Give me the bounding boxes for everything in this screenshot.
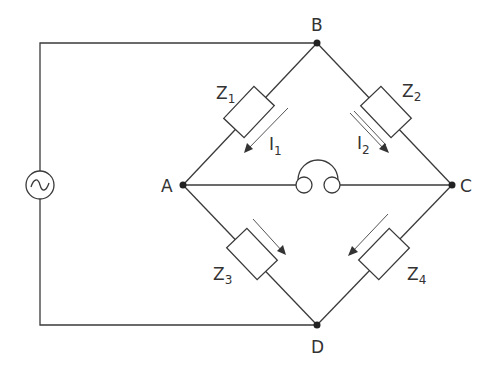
bridge-circuit-diagram: B A C D Z1 Z2 Z3 Z4 I1 I2 <box>0 0 496 376</box>
z4-label: Z4 <box>407 264 426 287</box>
node-b-dot <box>314 40 321 47</box>
node-a-dot <box>180 182 187 189</box>
node-d-dot <box>314 322 321 329</box>
ac-source-icon <box>26 171 54 199</box>
i1-label: I1 <box>269 134 282 158</box>
z3-label: Z3 <box>213 264 232 287</box>
z4-impedance <box>359 228 410 279</box>
z3-impedance <box>227 228 278 279</box>
z1-label: Z1 <box>216 83 235 106</box>
z2-label: Z2 <box>402 81 421 104</box>
node-d-label: D <box>311 337 324 357</box>
source-loop-wires <box>40 43 317 325</box>
node-a-label: A <box>161 176 173 196</box>
node-c-label: C <box>460 176 472 196</box>
node-b-label: B <box>311 15 323 35</box>
node-c-dot <box>449 182 456 189</box>
headphones-icon <box>296 160 340 193</box>
i2-label: I2 <box>357 133 370 157</box>
